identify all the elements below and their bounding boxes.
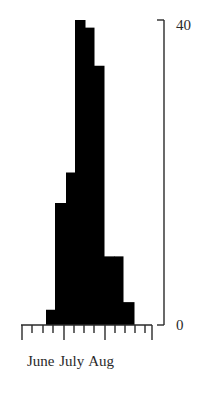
histogram-bar (46, 310, 56, 325)
histogram-bar (55, 203, 67, 325)
histogram-bar (85, 28, 95, 325)
histogram-bar (123, 302, 135, 325)
y-tick-label-zero: 0 (176, 318, 184, 333)
histogram-bar (104, 256, 115, 325)
y-tick-label-max: 40 (176, 18, 191, 33)
x-axis-month-labels: June July Aug (27, 353, 114, 370)
chart-canvas (0, 0, 208, 398)
y-axis-right (157, 20, 164, 325)
histogram-chart: 40 0 June July Aug (0, 0, 208, 398)
histogram-bar (66, 173, 76, 326)
histogram-bars (46, 20, 135, 325)
histogram-bar (114, 256, 124, 325)
histogram-bar (75, 20, 86, 325)
x-axis (21, 325, 152, 340)
histogram-bar (94, 66, 105, 325)
